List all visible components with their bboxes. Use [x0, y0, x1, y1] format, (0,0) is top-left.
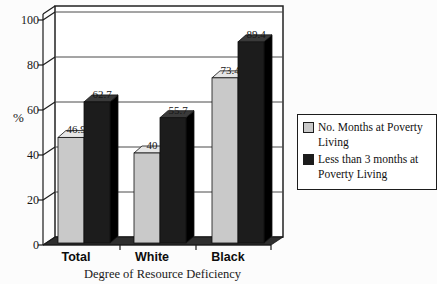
- value-label-Total-0: 46.9: [66, 123, 86, 135]
- legend-item-less-than-3: Less than 3 months at Poverty Living: [303, 152, 433, 181]
- legend-item-months: No. Months at Poverty Living: [303, 120, 433, 149]
- category-black: Black: [211, 250, 244, 264]
- x-axis-title: Degree of Resource Deficiency: [40, 267, 285, 282]
- y-tick-60: 60: [27, 103, 39, 117]
- legend-label: Less than 3 months at Poverty Living: [318, 152, 433, 181]
- bar-No. Months at Poverty Living-White: [134, 153, 160, 243]
- value-label-Black-0: 73.4: [220, 64, 240, 76]
- gray-series-swatch-icon: [303, 122, 314, 133]
- bar-side-Less than 3 months at Poverty Living-Total: [110, 95, 118, 243]
- legend: No. Months at Poverty Living Less than 3…: [297, 114, 437, 190]
- bar-side-Less than 3 months at Poverty Living-White: [186, 111, 194, 243]
- bar-No. Months at Poverty Living-Total: [58, 137, 84, 243]
- value-label-White-1: 55.7: [168, 104, 188, 116]
- category-labels: Total White Black: [62, 250, 245, 264]
- bar-side-Less than 3 months at Poverty Living-Black: [264, 35, 272, 243]
- bar-Less than 3 months at Poverty Living-White: [160, 118, 186, 243]
- y-tick-labels: 100 80 60 40 20 0: [21, 13, 39, 252]
- y-tick-100: 100: [21, 13, 39, 27]
- black-series-swatch-icon: [303, 154, 314, 165]
- legend-label: No. Months at Poverty Living: [318, 120, 433, 149]
- value-label-Total-1: 62.7: [92, 88, 112, 100]
- bar-Less than 3 months at Poverty Living-Black: [238, 42, 264, 243]
- value-label-White-0: 40: [147, 139, 159, 151]
- bar-No. Months at Poverty Living-Black: [212, 78, 238, 243]
- y-tick-80: 80: [27, 58, 39, 72]
- y-tick-40: 40: [27, 148, 39, 162]
- value-label-Black-1: 89.4: [246, 28, 266, 40]
- y-axis-title: %: [13, 110, 24, 125]
- y-axis: [38, 6, 55, 245]
- y-tick-0: 0: [33, 238, 39, 252]
- bar-Less than 3 months at Poverty Living-Total: [84, 102, 110, 243]
- category-white: White: [135, 250, 169, 264]
- y-tick-20: 20: [27, 193, 39, 207]
- category-total: Total: [62, 250, 91, 264]
